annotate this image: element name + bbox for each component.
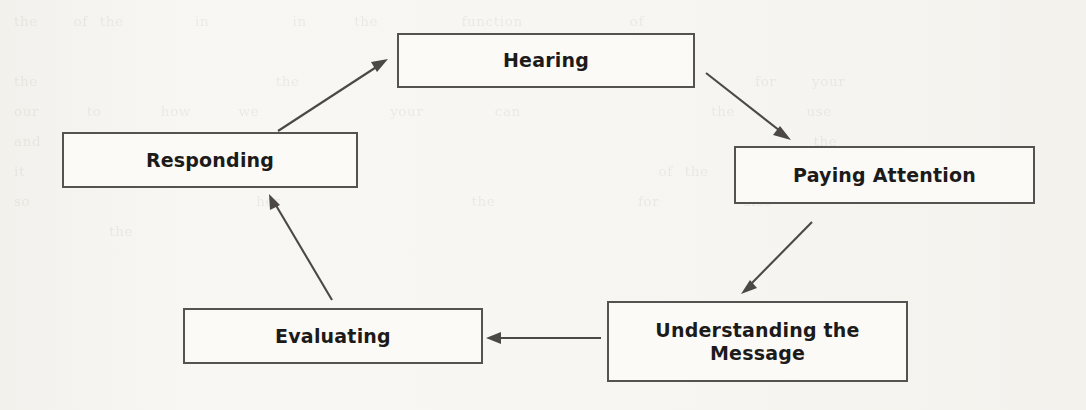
arrow-hearing-to-paying-attention <box>706 73 791 140</box>
node-hearing[interactable]: Hearing <box>397 33 695 88</box>
node-evaluating-label: Evaluating <box>275 325 391 347</box>
node-responding[interactable]: Responding <box>62 132 358 188</box>
node-hearing-label: Hearing <box>503 49 589 71</box>
node-paying-attention-label: Paying Attention <box>793 164 976 186</box>
arrow-evaluating-to-responding <box>269 194 332 300</box>
arrow-paying-attention-to-understanding <box>741 222 812 294</box>
node-understanding-the-message[interactable]: Understanding the Message <box>607 301 908 382</box>
node-understanding-the-message-label: Understanding the Message <box>655 319 859 364</box>
arrow-responding-to-hearing <box>278 59 388 131</box>
arrow-understanding-to-evaluating <box>486 332 601 344</box>
diagram-page: the of the in in the function of by the … <box>0 0 1086 410</box>
node-paying-attention[interactable]: Paying Attention <box>734 146 1035 204</box>
node-evaluating[interactable]: Evaluating <box>183 308 483 364</box>
node-responding-label: Responding <box>146 149 274 171</box>
